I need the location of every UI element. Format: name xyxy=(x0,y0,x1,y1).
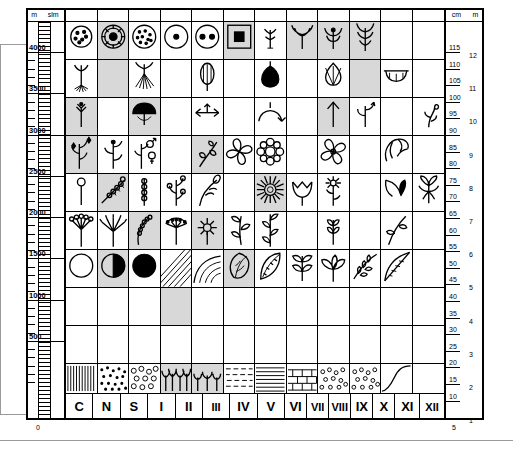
symbol-cell-empty[interactable] xyxy=(350,136,382,174)
symbol-cell-pollen-grain-single-pore[interactable] xyxy=(161,22,193,60)
symbol-cell-leafy-stem-tall[interactable] xyxy=(255,212,287,250)
column-label-IX[interactable]: IX xyxy=(351,394,373,420)
column-label-IV[interactable]: IV xyxy=(230,394,257,420)
symbol-cell-pollen-grain-two-pores[interactable] xyxy=(192,22,224,60)
symbol-cell-square-in-square[interactable] xyxy=(224,22,256,60)
symbol-cell-empty[interactable] xyxy=(129,326,161,364)
symbol-cell-empty[interactable] xyxy=(381,288,413,326)
texture-cell-gravel-dots-texture[interactable] xyxy=(350,364,382,394)
symbol-cell-small-flower-stalk[interactable] xyxy=(66,98,98,136)
symbol-cell-empty[interactable] xyxy=(287,98,319,136)
symbol-cell-empty[interactable] xyxy=(413,326,445,364)
symbol-cell-circle-open[interactable] xyxy=(66,250,98,288)
symbol-cell-empty[interactable] xyxy=(413,250,445,288)
column-label-S[interactable]: S xyxy=(121,394,148,420)
symbol-cell-empty[interactable] xyxy=(350,60,382,98)
symbol-cell-serrated-leaf[interactable] xyxy=(255,250,287,288)
symbol-cell-empty[interactable] xyxy=(66,288,98,326)
symbol-cell-tall-grass-plant[interactable] xyxy=(350,22,382,60)
symbol-cell-empty[interactable] xyxy=(413,60,445,98)
column-label-VIII[interactable]: VIII xyxy=(329,394,351,420)
symbol-cell-empty[interactable] xyxy=(192,288,224,326)
symbol-cell-curved-arrow-arc[interactable] xyxy=(255,98,287,136)
symbol-cell-curved-petal-flower[interactable] xyxy=(381,136,413,174)
symbol-cell-palmate-leaf[interactable] xyxy=(318,250,350,288)
symbol-cell-empty[interactable] xyxy=(413,288,445,326)
column-label-III[interactable]: III xyxy=(203,394,230,420)
column-label-I[interactable]: I xyxy=(148,394,175,420)
symbol-cell-empty[interactable] xyxy=(413,136,445,174)
column-label-VI[interactable]: VI xyxy=(285,394,307,420)
symbol-cell-arrow-branching[interactable] xyxy=(350,98,382,136)
symbol-cell-pin-head-stem[interactable] xyxy=(66,174,98,212)
symbol-cell-empty[interactable] xyxy=(224,174,256,212)
column-label-II[interactable]: II xyxy=(176,394,203,420)
symbol-cell-budding-branch[interactable] xyxy=(161,174,193,212)
symbol-cell-long-leaf-stem[interactable] xyxy=(381,212,413,250)
symbol-cell-compound-leaf[interactable] xyxy=(287,250,319,288)
symbol-cell-empty[interactable] xyxy=(287,136,319,174)
symbol-cell-empty[interactable] xyxy=(350,288,382,326)
column-label-V[interactable]: V xyxy=(258,394,285,420)
column-label-N[interactable]: N xyxy=(93,394,120,420)
texture-cell-vertical-hatch-texture[interactable] xyxy=(66,364,98,394)
texture-cell-horizontal-lines-texture[interactable] xyxy=(255,364,287,394)
symbol-cell-beaded-branch[interactable] xyxy=(98,174,130,212)
symbol-cell-flowering-stem-2[interactable] xyxy=(98,136,130,174)
symbol-cell-empty[interactable] xyxy=(318,326,350,364)
texture-cell-dotted-texture[interactable] xyxy=(98,364,130,394)
symbol-cell-empty[interactable] xyxy=(413,22,445,60)
symbol-cell-tulip-flower[interactable] xyxy=(287,174,319,212)
symbol-cell-crescent-shading[interactable] xyxy=(192,250,224,288)
symbol-cell-small-seedling[interactable] xyxy=(255,22,287,60)
symbol-cell-empty[interactable] xyxy=(318,288,350,326)
symbol-cell-upward-arrow[interactable] xyxy=(318,98,350,136)
symbol-cell-empty[interactable] xyxy=(381,98,413,136)
symbol-cell-curved-seed-stalk[interactable] xyxy=(192,174,224,212)
symbol-cell-empty[interactable] xyxy=(161,136,193,174)
symbol-cell-small-composite-flower[interactable] xyxy=(192,212,224,250)
symbol-cell-empty[interactable] xyxy=(255,326,287,364)
symbol-cell-broad-petal-flower[interactable] xyxy=(318,136,350,174)
symbol-cell-curled-tendril[interactable] xyxy=(413,98,445,136)
symbol-cell-empty[interactable] xyxy=(224,288,256,326)
symbol-cell-empty[interactable] xyxy=(350,212,382,250)
symbol-cell-four-petal-flower[interactable] xyxy=(224,136,256,174)
symbol-cell-empty[interactable] xyxy=(287,212,319,250)
symbol-cell-empty[interactable] xyxy=(287,60,319,98)
symbol-cell-ring-of-petals-flower[interactable] xyxy=(255,136,287,174)
symbol-cell-empty[interactable] xyxy=(287,288,319,326)
symbol-cell-flowering-stem[interactable] xyxy=(66,136,98,174)
column-label-XI[interactable]: XI xyxy=(395,394,420,420)
texture-cell-seedlings-row[interactable] xyxy=(192,364,224,394)
symbol-cell-iris-flower[interactable] xyxy=(413,174,445,212)
texture-cell-gravel-dots-texture[interactable] xyxy=(318,364,350,394)
symbol-cell-empty[interactable] xyxy=(255,288,287,326)
symbol-cell-small-branch-leaves[interactable] xyxy=(318,212,350,250)
texture-cell-dashes-texture[interactable] xyxy=(224,364,256,394)
symbol-cell-empty[interactable] xyxy=(224,326,256,364)
symbol-cell-empty[interactable] xyxy=(98,288,130,326)
symbol-cell-empty[interactable] xyxy=(224,60,256,98)
texture-cell-empty[interactable] xyxy=(413,364,445,394)
symbol-cell-empty[interactable] xyxy=(161,98,193,136)
symbol-cell-empty[interactable] xyxy=(350,326,382,364)
symbol-cell-beaded-stem-vertical[interactable] xyxy=(129,174,161,212)
symbol-cell-empty[interactable] xyxy=(192,326,224,364)
column-label-VII[interactable]: VII xyxy=(307,394,329,420)
symbol-cell-pollen-grain-concentric-star[interactable] xyxy=(98,22,130,60)
symbol-cell-leafy-stem[interactable] xyxy=(224,212,256,250)
texture-cell-rising-curve[interactable] xyxy=(381,364,413,394)
symbol-cell-sunflower-composite[interactable] xyxy=(255,174,287,212)
symbol-cell-empty[interactable] xyxy=(381,22,413,60)
column-label-X[interactable]: X xyxy=(373,394,395,420)
symbol-cell-empty[interactable] xyxy=(381,326,413,364)
symbol-cell-catkin-coil[interactable] xyxy=(129,212,161,250)
symbol-cell-broad-leaf[interactable] xyxy=(224,250,256,288)
symbol-cell-empty[interactable] xyxy=(161,288,193,326)
symbol-cell-empty[interactable] xyxy=(224,98,256,136)
symbol-cell-grass-tuft[interactable] xyxy=(287,22,319,60)
symbol-cell-circle-half-filled[interactable] xyxy=(98,250,130,288)
symbol-cell-empty[interactable] xyxy=(98,60,130,98)
texture-cell-small-plants-row[interactable] xyxy=(161,364,193,394)
